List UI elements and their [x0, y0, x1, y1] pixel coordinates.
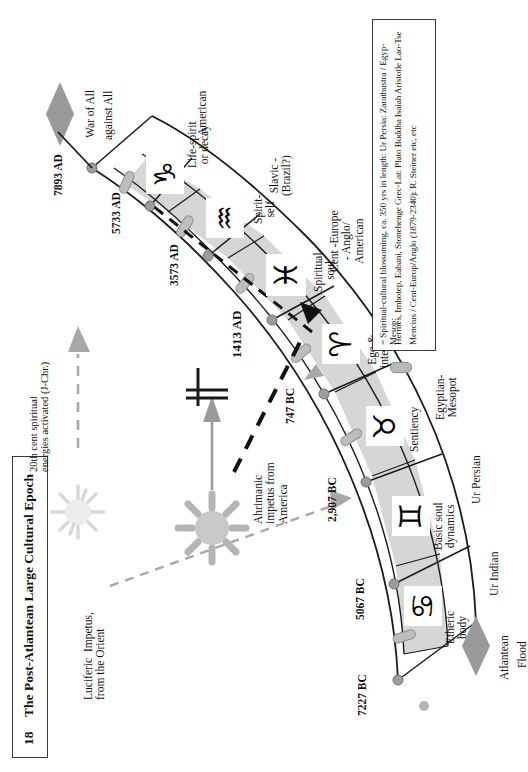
- date-mark-3: 747 BC: [284, 388, 296, 424]
- zodiac-glyph-cent-europ: ♓: [266, 254, 306, 296]
- culture-label-american: American: [196, 91, 208, 136]
- legend-line-3: Mencius / Cent-Europ/Anglo (1879-2340): …: [408, 126, 418, 345]
- culture-label-cent-europ: Cent -Europe - Anglo/ American: [328, 210, 365, 272]
- sun-arrow-head: [203, 396, 221, 422]
- stray-dot: [419, 701, 429, 711]
- sun-icon-large: [178, 494, 246, 562]
- sun-icon-small: [52, 486, 104, 538]
- cross-icon: [186, 368, 228, 406]
- inner-label-slavic: Spirit- self: [252, 195, 277, 224]
- legend-pill-icon: [390, 362, 412, 373]
- date-mark-6: 5733 AD: [110, 192, 122, 234]
- annotation-flood-top: Atlantean: [498, 635, 510, 680]
- annotation-war-bottom: against All: [102, 90, 114, 140]
- zodiac-glyph-ur-persian: ♊: [392, 496, 430, 536]
- zodiac-glyph-egypt-meso: ♉: [366, 406, 404, 446]
- zodiac-glyph-american: ♑: [146, 154, 184, 194]
- date-mark-0: 7227 BC: [356, 674, 368, 716]
- culture-label-ur-persian: Ur Persian: [470, 455, 482, 504]
- date-mark-5: 3573 AD: [168, 244, 180, 286]
- inner-label-ur-indian: Etheric body: [444, 611, 469, 644]
- annotation-twentieth-century: 20th cent spiritual energies activated (…: [28, 362, 51, 472]
- annotation-luciferic: Luciferic Impetus, from the Orient: [82, 612, 107, 700]
- legend-line-2: Hermes, Imhotep, Eabani, Stonehenge Grec…: [393, 31, 403, 345]
- zodiac-glyph-ur-indian: ♋: [404, 586, 442, 626]
- culture-label-ur-indian: Ur Indian: [488, 552, 500, 596]
- inner-label-egypt-meso: Sentiency: [408, 407, 420, 452]
- twentieth-century-arrowhead: [68, 326, 90, 352]
- annotation-war-top: War of All: [84, 90, 96, 138]
- zodiac-glyph-slavic: ♒: [206, 198, 244, 238]
- legend-box: = Spiritual-cultural blossoming, ca. 350…: [372, 19, 436, 351]
- culture-label-slavic: Slavic - (Brazil?): [268, 155, 293, 196]
- inner-label-ur-persian: Basic soul dynamics: [432, 502, 457, 550]
- annotation-ahrimanic: Ahrimanic impetus from America: [252, 462, 289, 524]
- annotation-flood-bottom: Flood: [516, 641, 528, 668]
- date-mark-4: 1413 AD: [230, 311, 244, 358]
- date-mark-1: 5067 BC: [354, 578, 366, 620]
- culture-label-egypt-meso: Egyptian- Mesopot: [434, 375, 459, 420]
- date-mark-2: 2,907 BC: [326, 477, 338, 522]
- war-of-all-marker: [46, 82, 74, 146]
- zodiac-glyph-greco-latin: ♈: [322, 324, 360, 364]
- date-mark-7: 7893 AD: [52, 154, 64, 196]
